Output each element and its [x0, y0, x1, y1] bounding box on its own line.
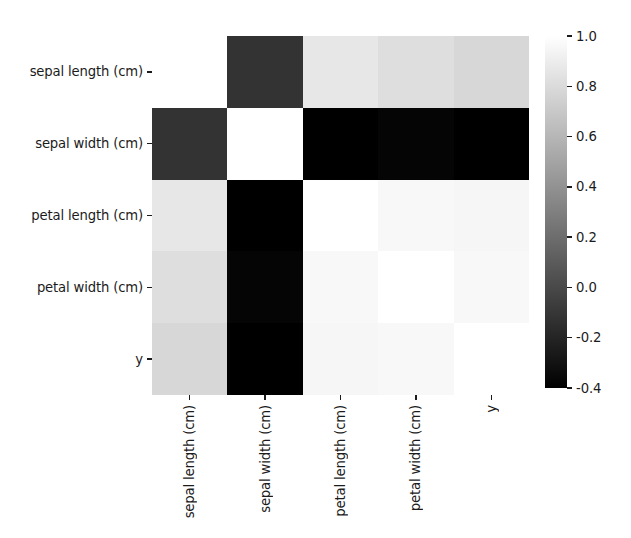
heatmap-cell [454, 323, 529, 395]
heatmap-cell [378, 36, 453, 108]
colorbar-tick-label: -0.2 [572, 330, 601, 345]
y-axis: sepal length (cm)sepal width (cm)petal l… [0, 36, 152, 395]
heatmap-cell [227, 180, 302, 252]
x-axis-tick-label: sepal width (cm) [258, 405, 273, 513]
heatmap-plot-area [152, 36, 529, 395]
x-axis-tick-mark [415, 395, 416, 400]
heatmap-cell [454, 108, 529, 180]
x-axis-tick: y [454, 395, 529, 413]
colorbar-tick-label: -0.4 [572, 381, 601, 396]
x-axis-tick-mark [264, 395, 265, 400]
x-axis-tick-label: petal width (cm) [408, 405, 423, 511]
x-axis-tick: petal width (cm) [378, 395, 453, 511]
heatmap-cell [303, 251, 378, 323]
y-axis-tick: sepal length (cm) [30, 36, 152, 108]
heatmap-cell [303, 36, 378, 108]
y-axis-tick-label: sepal width (cm) [35, 136, 147, 151]
colorbar-tick-label: 0.8 [572, 79, 597, 94]
correlation-heatmap-figure: sepal length (cm)sepal width (cm)petal l… [0, 0, 631, 538]
heatmap-cell [152, 323, 227, 395]
y-axis-tick-label: petal length (cm) [31, 208, 147, 223]
heatmap-cell [227, 251, 302, 323]
colorbar-tick-label: 1.0 [572, 29, 597, 44]
colorbar-gradient [545, 36, 567, 388]
colorbar-tick-label: 0.0 [572, 280, 597, 295]
x-axis-tick-label: petal length (cm) [333, 405, 348, 517]
heatmap-cell [227, 323, 302, 395]
colorbar-tick-label: 0.2 [572, 230, 597, 245]
heatmap-cell [152, 180, 227, 252]
x-axis-tick: sepal width (cm) [227, 395, 302, 513]
heatmap-cell [454, 180, 529, 252]
x-axis-tick-mark [189, 395, 190, 400]
heatmap-cell [378, 108, 453, 180]
heatmap-cell [454, 251, 529, 323]
x-axis-tick-label: y [484, 405, 499, 413]
x-axis-tick: sepal length (cm) [152, 395, 227, 518]
x-axis-tick-mark [491, 395, 492, 400]
colorbar-tick-label: 0.6 [572, 129, 597, 144]
colorbar: 1.00.80.60.40.20.0-0.2-0.4 [545, 36, 631, 388]
colorbar-tick-label: 0.4 [572, 179, 597, 194]
x-axis-tick-label: sepal length (cm) [182, 405, 197, 518]
x-axis-tick: petal length (cm) [303, 395, 378, 517]
heatmap-cell [378, 251, 453, 323]
heatmap-cell [303, 108, 378, 180]
heatmap-cell [152, 36, 227, 108]
y-axis-tick: petal length (cm) [31, 180, 152, 252]
heatmap-cell [454, 36, 529, 108]
heatmap-cell [227, 36, 302, 108]
y-axis-tick-label: sepal length (cm) [30, 64, 147, 79]
y-axis-tick: y [135, 323, 152, 395]
x-axis-tick-mark [340, 395, 341, 400]
x-axis: sepal length (cm)sepal width (cm)petal l… [152, 395, 529, 538]
heatmap-cell [378, 323, 453, 395]
heatmap-cell [303, 323, 378, 395]
y-axis-tick: petal width (cm) [37, 251, 152, 323]
heatmap-cell [152, 108, 227, 180]
heatmap-cell [378, 180, 453, 252]
heatmap-cell [152, 251, 227, 323]
y-axis-tick-label: petal width (cm) [37, 280, 147, 295]
heatmap-cell [227, 108, 302, 180]
heatmap-cell-grid [152, 36, 529, 395]
heatmap-cell [303, 180, 378, 252]
y-axis-tick-label: y [135, 352, 147, 367]
y-axis-tick: sepal width (cm) [35, 108, 152, 180]
